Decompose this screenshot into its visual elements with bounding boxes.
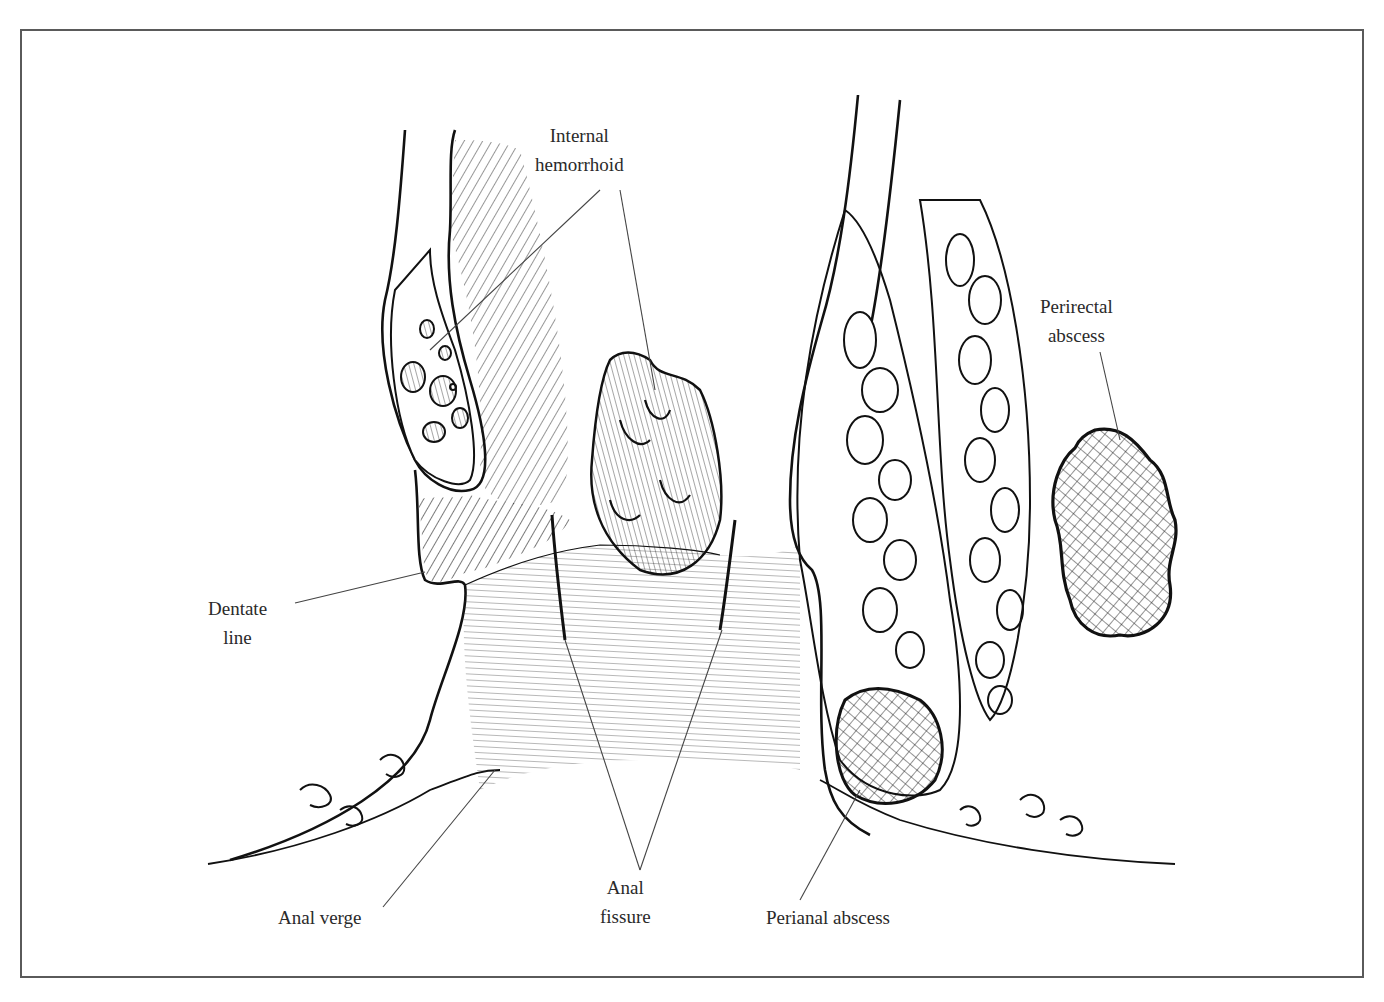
- anorectal-illustration: [0, 0, 1384, 1002]
- label-line-2: line: [208, 623, 267, 652]
- label-line-1: Dentate: [208, 594, 267, 623]
- label-line-1: Anal: [600, 873, 651, 902]
- label-anal-verge: Anal verge: [278, 903, 362, 932]
- label-line-1: Internal: [535, 121, 624, 150]
- label-line-2: hemorrhoid: [535, 150, 624, 179]
- anal-canal: [464, 545, 800, 790]
- label-perianal-abscess: Perianal abscess: [766, 903, 890, 932]
- label-dentate-line: Dentate line: [208, 594, 267, 652]
- perirectal-abscess-shape: [1053, 429, 1176, 636]
- label-line-2: fissure: [600, 902, 651, 931]
- perianal-abscess-shape: [836, 688, 942, 803]
- label-anal-fissure: Anal fissure: [600, 873, 651, 931]
- label-perirectal-abscess: Perirectal abscess: [1040, 292, 1113, 350]
- perianal-skin-folds: [300, 755, 1082, 836]
- internal-hemorrhoid: [591, 353, 721, 575]
- label-line-2: abscess: [1040, 321, 1113, 350]
- label-line-1: Perirectal: [1040, 292, 1113, 321]
- left-rectal-wall: [230, 130, 485, 860]
- label-internal-hemorrhoid: Internal hemorrhoid: [535, 121, 624, 179]
- ischiorectal-fat: [844, 234, 1023, 714]
